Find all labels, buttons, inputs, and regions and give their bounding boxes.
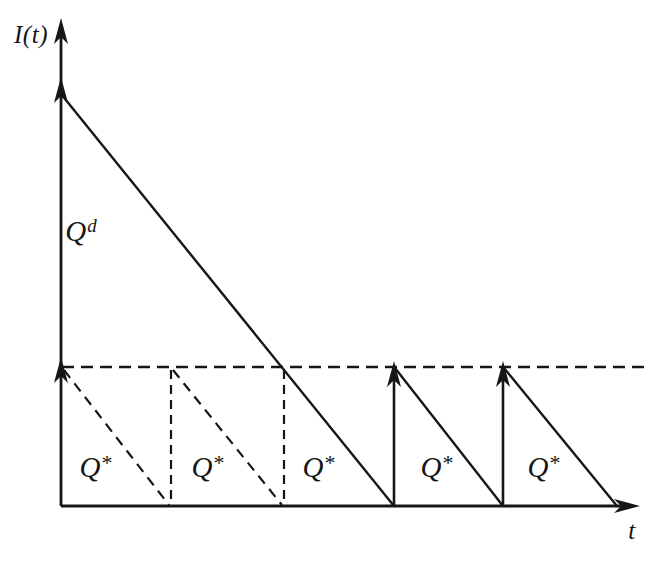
dashed-depletion-line-1 (64, 370, 169, 505)
cycle-label-2-superscript: * (213, 450, 224, 475)
cycle-label-1-superscript: * (101, 450, 112, 475)
dashed-depletion-line-2 (173, 370, 282, 505)
cycle-label-1: Q* (80, 450, 113, 483)
initial-depletion-line (61, 94, 394, 506)
cycle-label-5-base: Q (528, 451, 549, 483)
inventory-sawtooth-diagram: I(t) t Qd Q* Q* Q* Q* Q* (0, 0, 659, 564)
cycle-label-5: Q* (528, 450, 561, 483)
cycle-label-2: Q* (192, 450, 225, 483)
x-axis-label: t (628, 517, 635, 545)
cycle-label-4-superscript: * (442, 450, 453, 475)
cycle-label-4-base: Q (421, 451, 442, 483)
initial-order-label: Qd (65, 215, 96, 248)
initial-order-superscript: d (87, 215, 97, 236)
depletion-line-cycle-4 (395, 368, 503, 506)
initial-order-base: Q (65, 215, 86, 247)
cycle-label-1-base: Q (80, 451, 101, 483)
cycle-label-5-superscript: * (549, 450, 560, 475)
cycle-label-4: Q* (421, 450, 454, 483)
depletion-line-cycle-5 (504, 368, 617, 506)
y-axis-label: I(t) (14, 21, 48, 49)
cycle-label-3-base: Q (303, 451, 324, 483)
cycle-label-2-base: Q (192, 451, 213, 483)
cycle-label-3: Q* (303, 450, 336, 483)
cycle-label-3-superscript: * (324, 450, 335, 475)
